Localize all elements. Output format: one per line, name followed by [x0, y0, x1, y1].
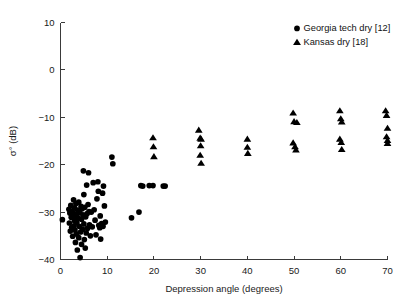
- data-point-triangle: [150, 143, 158, 149]
- y-tick-label: −20: [38, 159, 54, 170]
- data-point-circle: [162, 183, 168, 189]
- x-tick-label: 60: [335, 265, 346, 276]
- data-point-triangle: [195, 127, 203, 133]
- data-point-triangle: [384, 125, 392, 131]
- data-point-circle: [81, 237, 87, 243]
- data-point-circle: [74, 247, 80, 253]
- data-point-circle: [88, 233, 94, 239]
- x-tick-label: 50: [289, 265, 300, 276]
- data-point-circle: [150, 183, 156, 189]
- data-point-circle: [81, 221, 87, 227]
- data-point-circle: [136, 209, 142, 215]
- x-tick-label: 0: [58, 265, 63, 276]
- y-tick-label: 0: [49, 64, 54, 75]
- data-point-circle: [95, 179, 101, 185]
- data-point-circle: [60, 217, 66, 223]
- x-tick-label: 10: [102, 265, 113, 276]
- legend-marker-triangle: [293, 39, 301, 45]
- data-point-triangle: [336, 136, 344, 142]
- data-point-triangle: [383, 133, 391, 139]
- legend-label: Kansas dry [18]: [304, 37, 369, 47]
- data-point-circle: [110, 161, 116, 167]
- data-point-triangle: [382, 107, 390, 113]
- data-point-triangle: [150, 153, 158, 159]
- x-tick-label: 20: [149, 265, 160, 276]
- data-point-triangle: [149, 134, 157, 140]
- data-point-circle: [101, 183, 107, 189]
- data-point-triangle: [336, 107, 344, 113]
- data-point-circle: [97, 213, 103, 219]
- data-point-circle: [100, 190, 106, 196]
- data-points-group: [60, 107, 392, 260]
- x-tick-label: 30: [195, 265, 206, 276]
- data-point-circle: [92, 217, 98, 223]
- legend-marker-circle: [294, 26, 300, 32]
- y-tick-label: −40: [38, 254, 54, 265]
- x-axis-title: Depression angle (degrees): [165, 283, 282, 294]
- legend-group: Georgia tech dry [12]Kansas dry [18]: [293, 23, 390, 47]
- data-point-circle: [86, 170, 92, 176]
- data-point-triangle: [244, 136, 252, 142]
- data-point-circle: [77, 255, 83, 261]
- y-tick-label: −10: [38, 112, 54, 123]
- data-point-circle: [109, 154, 115, 160]
- data-point-circle: [73, 240, 79, 246]
- data-point-circle: [129, 215, 135, 221]
- data-point-triangle: [197, 142, 205, 148]
- data-point-circle: [93, 232, 99, 238]
- data-point-triangle: [338, 146, 346, 152]
- data-point-circle: [81, 192, 87, 198]
- data-point-circle: [76, 235, 82, 241]
- data-point-triangle: [196, 152, 204, 158]
- scatter-plot-figure: 100−10−20−30−40010203040506070 Georgia t…: [0, 0, 411, 304]
- data-point-circle: [81, 168, 87, 174]
- y-axis-title: σ° (dB): [7, 126, 18, 156]
- data-point-circle: [91, 207, 97, 213]
- legend-label: Georgia tech dry [12]: [304, 23, 391, 33]
- data-point-triangle: [289, 109, 297, 115]
- data-point-circle: [140, 183, 146, 189]
- data-point-circle: [82, 245, 88, 251]
- data-point-circle: [94, 196, 100, 202]
- plot-canvas: 100−10−20−30−40010203040506070 Georgia t…: [0, 0, 411, 304]
- data-point-circle: [102, 203, 108, 209]
- data-point-triangle: [244, 144, 252, 150]
- data-point-circle: [98, 236, 104, 242]
- data-point-circle: [89, 224, 95, 230]
- data-point-circle: [84, 182, 90, 188]
- y-tick-label: −30: [38, 207, 54, 218]
- y-tick-label: 10: [44, 17, 55, 28]
- data-point-triangle: [197, 160, 205, 166]
- data-point-triangle: [244, 150, 252, 156]
- data-point-circle: [103, 219, 109, 225]
- x-tick-label: 40: [242, 265, 253, 276]
- data-point-circle: [85, 202, 91, 208]
- x-tick-label: 70: [382, 265, 393, 276]
